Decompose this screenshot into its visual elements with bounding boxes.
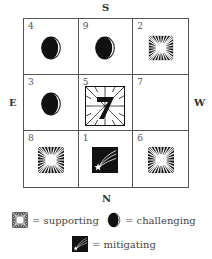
grid-cell-6: 6 bbox=[133, 131, 188, 187]
lo-shu-grid: 4 9 2 3 5 bbox=[23, 18, 189, 188]
direction-west: W bbox=[194, 97, 205, 108]
supporting-sun-icon bbox=[148, 35, 173, 60]
legend-mitigating: = mitigating bbox=[72, 236, 156, 252]
legend-challenging: = challenging bbox=[107, 212, 196, 228]
supporting-sun-icon bbox=[38, 147, 64, 173]
grid-cell-7: 7 bbox=[133, 75, 188, 131]
grid-cell-4: 4 bbox=[24, 19, 79, 75]
challenging-moon-icon bbox=[94, 35, 116, 61]
grid-cell-8: 8 bbox=[24, 131, 79, 187]
legend-label: = mitigating bbox=[92, 239, 156, 250]
cell-number: 8 bbox=[28, 133, 34, 143]
grid-cell-5: 5 bbox=[79, 75, 134, 131]
grid-cell-3: 3 bbox=[24, 75, 79, 131]
direction-south: S bbox=[102, 2, 109, 13]
cell-number: 1 bbox=[83, 133, 89, 143]
challenging-moon-icon bbox=[40, 35, 62, 61]
direction-north: N bbox=[102, 193, 111, 204]
supporting-sun-icon bbox=[148, 147, 174, 173]
challenging-moon-icon bbox=[40, 91, 62, 117]
grid-cell-1: 1 bbox=[79, 131, 134, 187]
legend-label: = challenging bbox=[125, 215, 196, 226]
cell-number: 9 bbox=[83, 21, 89, 31]
direction-east: E bbox=[9, 97, 17, 108]
cell-number: 4 bbox=[28, 21, 34, 31]
supporting-seven-star-icon bbox=[85, 86, 125, 126]
cell-number: 2 bbox=[137, 21, 143, 31]
mitigating-comet-icon bbox=[72, 236, 88, 252]
legend-supporting: = supporting bbox=[12, 212, 99, 228]
grid-cell-2: 2 bbox=[133, 19, 188, 75]
grid-cell-9: 9 bbox=[79, 19, 134, 75]
cell-number: 7 bbox=[137, 77, 143, 87]
challenging-moon-icon bbox=[107, 212, 121, 228]
cell-number: 6 bbox=[137, 133, 143, 143]
mitigating-comet-icon bbox=[92, 147, 118, 173]
cell-number: 3 bbox=[28, 77, 34, 87]
legend-label: = supporting bbox=[32, 215, 99, 226]
supporting-sun-icon bbox=[12, 212, 28, 228]
